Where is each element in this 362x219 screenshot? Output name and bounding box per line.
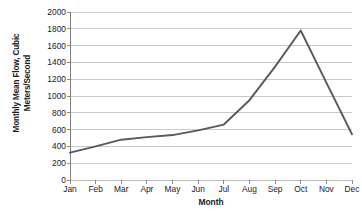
series-line-monthly-mean-flow [70,30,352,152]
x-axis-tick-labels: JanFebMarAprMayJunJulAugSepOctNovDec [70,184,352,198]
y-tick-label: 200 [34,159,66,168]
data-series-line [70,12,352,180]
line-chart-figure: Monthly Mean Flow, Cubic Meters/Second 0… [0,0,362,219]
y-tick-label: 600 [34,125,66,134]
y-tick-label: 1400 [34,58,66,67]
x-axis-title: Month [70,197,352,207]
x-tick-label: Dec [335,184,362,194]
plot-area [70,12,352,180]
y-axis-tick-labels: 0200400600800100012001400160018002000 [34,8,66,180]
y-tick-label: 400 [34,142,66,151]
y-tick-label: 2000 [34,8,66,17]
y-tick-label: 1000 [34,92,66,101]
y-tick-label: 1800 [34,24,66,33]
y-tick-label: 1600 [34,41,66,50]
y-tick-label: 800 [34,108,66,117]
y-tick-label: 1200 [34,75,66,84]
